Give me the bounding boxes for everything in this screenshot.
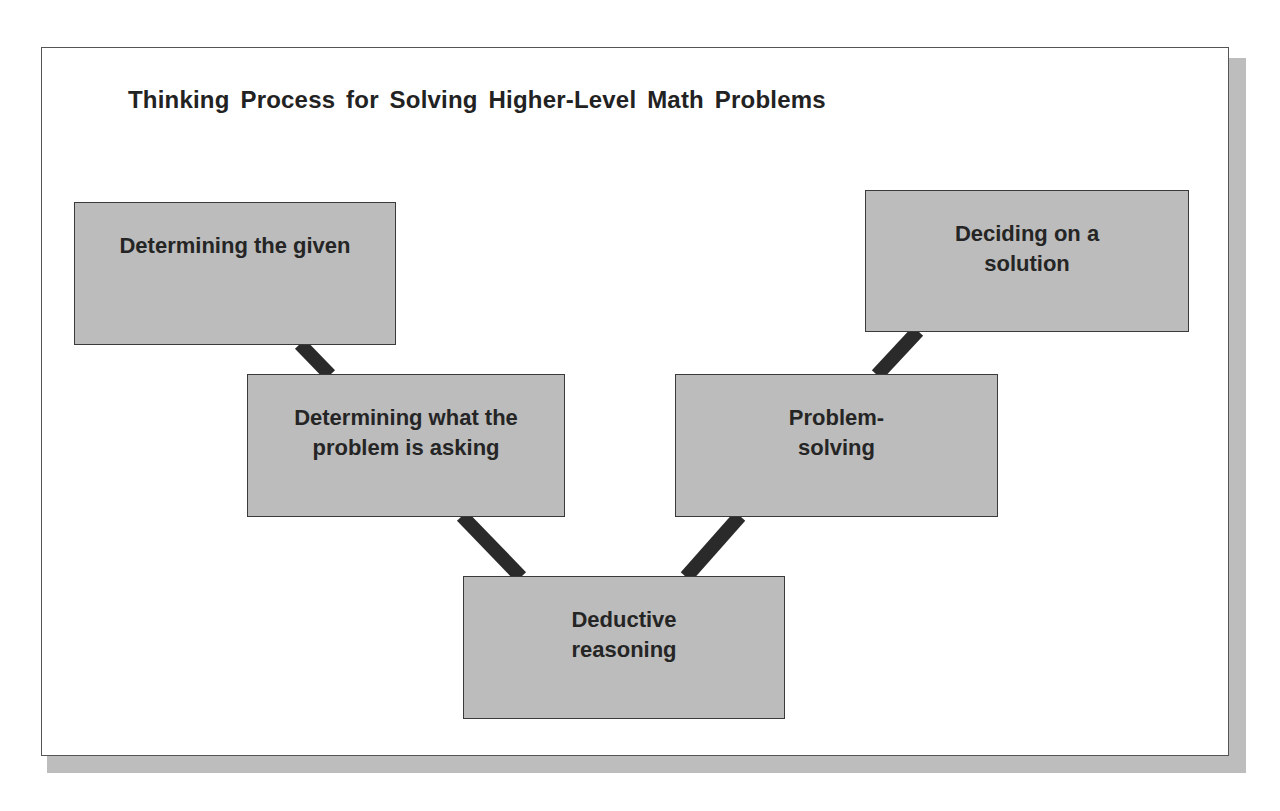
- node-determining-asking: Determining what the problem is asking: [247, 374, 565, 517]
- node-label: Determining what the problem is asking: [248, 403, 564, 463]
- connector-given-asking: [300, 344, 330, 375]
- node-deciding-solution: Deciding on a solution: [865, 190, 1189, 332]
- connector-asking-deductive: [462, 516, 521, 577]
- node-problem-solving: Problem-solving: [675, 374, 998, 517]
- node-label: Deductive reasoning: [538, 605, 710, 665]
- node-label: Deciding on a solution: [921, 219, 1133, 279]
- node-label: Determining the given: [104, 231, 366, 261]
- connector-problem-solving-solution: [877, 331, 918, 375]
- node-label: Problem-solving: [771, 403, 903, 463]
- connector-deductive-problem-solving: [686, 516, 740, 577]
- node-determining-given: Determining the given: [74, 202, 396, 345]
- node-deductive-reasoning: Deductive reasoning: [463, 576, 785, 719]
